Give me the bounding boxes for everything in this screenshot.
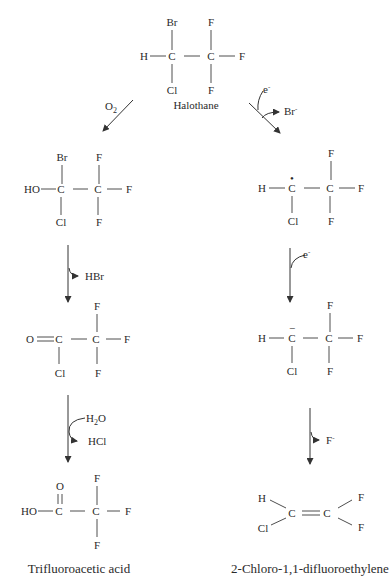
reaction-scheme: Br F H C C F Cl F Halothane O2 Br F HO C… — [0, 0, 389, 585]
svg-text:F: F — [94, 300, 100, 312]
atom-br: Br — [167, 16, 178, 28]
radical-intermediate-structure: F H C • C F Cl F — [258, 147, 364, 227]
svg-text:Br: Br — [57, 151, 68, 163]
svg-text:C: C — [326, 182, 333, 194]
svg-text:F: F — [328, 147, 334, 159]
halothane-structure: Br F H C C F Cl F Halothane — [140, 16, 245, 111]
svg-text:C: C — [325, 332, 332, 344]
svg-text:F: F — [357, 332, 363, 344]
svg-text:O: O — [26, 333, 34, 345]
svg-text:C: C — [92, 333, 99, 345]
left-arrow-o2: O2 — [103, 100, 133, 131]
atom-f-top: F — [208, 16, 214, 28]
compound-name-halothane: Halothane — [173, 99, 218, 111]
svg-text:C: C — [94, 183, 101, 195]
atom-c1: C — [168, 50, 175, 62]
svg-text:F: F — [328, 215, 334, 227]
svg-text:F: F — [94, 539, 100, 551]
reagent-electron: e- — [263, 83, 271, 95]
atom-f-bottom: F — [208, 84, 214, 96]
left-arrow-hbr: HBr — [68, 245, 104, 302]
left-arrow-h2o-hcl: H2O HCl — [68, 395, 106, 462]
svg-text:Cl: Cl — [288, 215, 298, 227]
compound-name-tfa: Trifluoroacetic acid — [28, 561, 131, 576]
svg-text:F: F — [358, 182, 364, 194]
atom-f-right: F — [239, 50, 245, 62]
atom-cl: Cl — [167, 84, 177, 96]
svg-text:C: C — [323, 507, 330, 519]
svg-text:Cl: Cl — [287, 365, 297, 377]
svg-text:Cl: Cl — [258, 522, 268, 534]
svg-text:F: F — [95, 367, 101, 379]
trifluoroacetic-acid-structure: F O HO C C F F Trifluoroacetic acid — [21, 472, 131, 576]
svg-text:F: F — [327, 299, 333, 311]
svg-text:C: C — [55, 505, 62, 517]
right-arrow-fluoride: F- — [310, 408, 335, 464]
svg-text:Cl: Cl — [55, 367, 65, 379]
svg-text:F: F — [327, 365, 333, 377]
right-arrow-electron: e- — [290, 248, 311, 302]
svg-text:F: F — [358, 491, 364, 503]
carbanion-intermediate-structure: F H C − C F Cl F — [258, 299, 363, 377]
svg-text:H: H — [258, 492, 266, 504]
atom-h: H — [140, 50, 148, 62]
reagent-o2: O2 — [105, 100, 117, 115]
byproduct-hcl: HCl — [88, 435, 106, 447]
byproduct-bromide: Br- — [284, 105, 298, 117]
right-arrow-e-br: e- Br- — [249, 83, 298, 133]
byproduct-hbr: HBr — [85, 270, 104, 282]
acyl-chloride-structure: F O C C F Cl F — [26, 300, 130, 379]
svg-text:C: C — [57, 183, 64, 195]
svg-text:C: C — [288, 507, 295, 519]
svg-text:H: H — [258, 332, 266, 344]
svg-text:F: F — [96, 151, 102, 163]
compound-name-chlorodifluoroethylene: 2-Chloro-1,1-difluoroethylene — [231, 561, 389, 576]
bromochloro-alcohol-structure: Br F HO C C F Cl F — [24, 151, 132, 228]
reagent-electron-2: e- — [303, 248, 311, 260]
reagent-h2o: H2O — [86, 412, 106, 427]
svg-text:Cl: Cl — [56, 216, 66, 228]
svg-text:F: F — [126, 183, 132, 195]
svg-text:O: O — [56, 480, 64, 492]
atom-c2: C — [207, 50, 214, 62]
svg-text:F: F — [124, 333, 130, 345]
svg-text:F: F — [358, 521, 364, 533]
byproduct-fluoride: F- — [326, 434, 335, 446]
svg-text:HO: HO — [24, 183, 40, 195]
svg-text:H: H — [258, 182, 266, 194]
svg-text:F: F — [96, 216, 102, 228]
svg-text:C: C — [92, 505, 99, 517]
svg-text:HO: HO — [21, 505, 37, 517]
radical-dot: • — [290, 172, 294, 184]
anion-mark: − — [289, 322, 295, 334]
svg-text:F: F — [125, 505, 131, 517]
chlorodifluoroethylene-structure: H Cl C C F F 2-Chloro-1,1-difluoroethyle… — [231, 491, 389, 576]
svg-text:F: F — [94, 472, 100, 484]
svg-text:C: C — [55, 333, 62, 345]
